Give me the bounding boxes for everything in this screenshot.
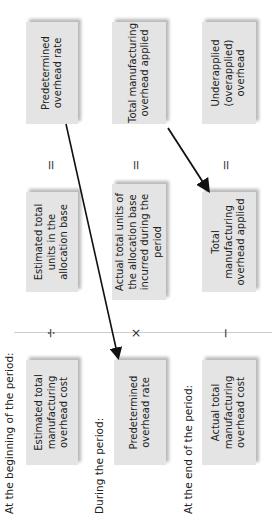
overhead-flow-diagram: At the beginning of the period: Estimate… (0, 0, 272, 520)
arrow-rate-to-during (66, 124, 118, 357)
arrows-layer (0, 0, 272, 520)
arrow-applied-to-end (168, 128, 208, 190)
